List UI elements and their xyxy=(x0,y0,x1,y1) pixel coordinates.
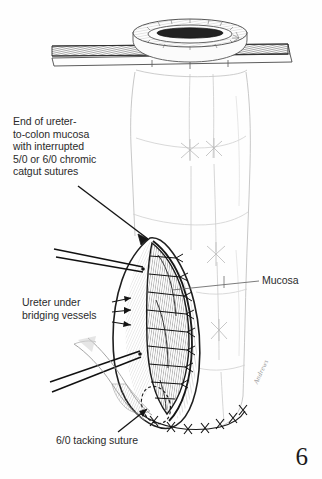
illustration-svg xyxy=(0,0,322,479)
label-ureter-under-bridging-vessels: Ureter under bridging vessels xyxy=(22,296,140,321)
page-number: 6 xyxy=(296,444,309,469)
colon-shading xyxy=(236,96,239,356)
colon-collar xyxy=(136,70,247,77)
forceps-upper-tip xyxy=(141,267,145,271)
leader-arrow-tacking xyxy=(118,409,147,432)
label-end-of-ureter: End of ureter- to-colon mucosa with inte… xyxy=(13,115,141,178)
label-mucosa: Mucosa xyxy=(262,274,298,287)
forceps-lower-tip xyxy=(138,352,142,356)
figure-canvas: End of ureter- to-colon mucosa with inte… xyxy=(0,0,322,479)
label-tacking-suture: 6/0 tacking suture xyxy=(56,434,196,447)
